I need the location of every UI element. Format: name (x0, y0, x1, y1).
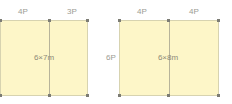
post-marker (86, 94, 89, 97)
post-marker (0, 19, 2, 22)
post-marker (0, 94, 2, 97)
dimension-label: 6×7m (34, 53, 54, 62)
post-marker (48, 94, 51, 97)
dimension-label: 6×8m (158, 53, 178, 62)
post-marker (217, 94, 220, 97)
post-marker (118, 94, 121, 97)
post-marker (86, 19, 89, 22)
post-marker (48, 19, 51, 22)
post-marker (167, 94, 170, 97)
side-span-label: 6P (106, 53, 116, 62)
top-span-label-right: 3P (67, 7, 77, 16)
top-span-label-left: 4P (137, 7, 147, 16)
top-span-label-right: 4P (189, 7, 199, 16)
post-marker (217, 19, 220, 22)
post-marker (167, 19, 170, 22)
post-marker (118, 19, 121, 22)
top-span-label-left: 4P (18, 7, 28, 16)
